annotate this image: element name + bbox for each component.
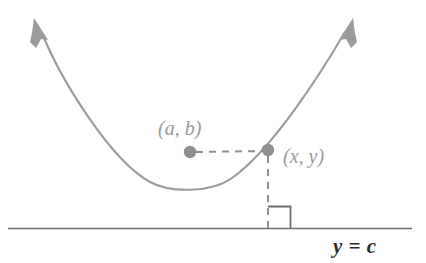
right-arrowhead-icon xyxy=(339,18,357,48)
figure-container: (a, b) (x, y) y = c xyxy=(0,0,426,263)
focus-point-label: (a, b) xyxy=(158,118,201,138)
focus-dot xyxy=(184,146,196,158)
curve-point-label: (x, y) xyxy=(283,146,324,166)
parabola-diagram-svg xyxy=(0,0,426,263)
curve-point-dot xyxy=(262,144,274,156)
right-angle-marker xyxy=(268,207,291,229)
focal-dashed-segment xyxy=(196,151,264,152)
directrix-label: y = c xyxy=(333,236,377,257)
